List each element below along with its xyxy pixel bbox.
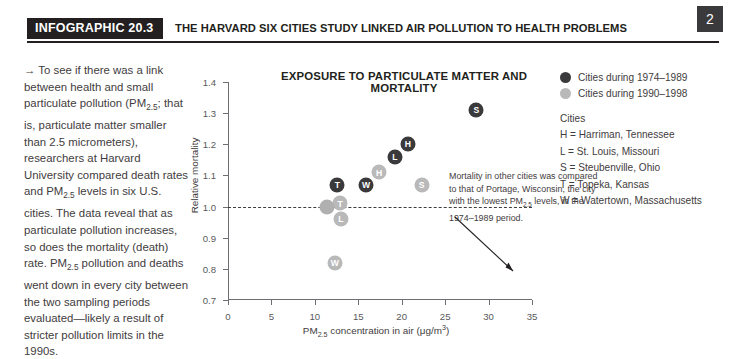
chart-legend: Cities during 1974–1989Cities during 199…: [560, 72, 740, 209]
x-tick-label: 20: [396, 311, 407, 322]
y-tick: 0.9: [223, 238, 228, 239]
y-tick: 0.8: [223, 269, 228, 270]
y-tick-label: 1.1: [203, 170, 216, 181]
legend-swatch-icon: [560, 88, 571, 99]
x-tick: 30: [489, 300, 490, 305]
legend-key-item: S = Steubenville, Ohio: [560, 160, 740, 176]
data-point-marker: T: [333, 196, 348, 211]
data-point-marker: [320, 199, 335, 214]
data-point-marker: W: [359, 177, 374, 192]
infographic-header: INFOGRAPHIC 20.3 THE HARVARD SIX CITIES …: [0, 0, 745, 46]
data-point-marker: S: [414, 177, 429, 192]
y-tick: 1.1: [223, 175, 228, 176]
legend-key-item: H = Harriman, Tennessee: [560, 127, 740, 143]
data-point-marker: H: [372, 165, 387, 180]
x-tick-label: 15: [353, 311, 364, 322]
y-tick-label: 1.0: [203, 201, 216, 212]
y-tick: 1.3: [223, 113, 228, 114]
y-tick-label: 1.2: [203, 139, 216, 150]
y-axis-label: Relative mortality: [189, 138, 200, 214]
x-tick-label: 25: [440, 311, 451, 322]
intro-paragraph: → To see if there was a link between hea…: [24, 62, 190, 359]
x-axis-line: [228, 299, 532, 300]
y-tick-label: 0.7: [203, 295, 216, 306]
x-tick-label: 10: [310, 311, 321, 322]
x-tick-label: 0: [225, 311, 230, 322]
data-point-marker: L: [387, 149, 402, 164]
legend-key-item: T = Topeka, Kansas: [560, 177, 740, 193]
legend-item-label: Cities during 1974–1989: [578, 72, 687, 83]
page-title: THE HARVARD SIX CITIES STUDY LINKED AIR …: [175, 22, 627, 34]
legend-key-title: Cities: [560, 111, 740, 127]
legend-item-label: Cities during 1990–1998: [578, 88, 687, 99]
legend-series-list: Cities during 1974–1989Cities during 199…: [560, 72, 740, 99]
data-point-marker: W: [327, 255, 342, 270]
x-axis-label: PM2.5 concentration in air (μg/m3): [196, 324, 556, 339]
data-point-marker: S: [469, 103, 484, 118]
x-tick: 5: [271, 300, 272, 305]
page-number-badge: 2: [697, 6, 723, 32]
x-tick: 25: [445, 300, 446, 305]
legend-item: Cities during 1974–1989: [560, 72, 740, 83]
y-tick-label: 1.3: [203, 108, 216, 119]
data-point-marker: H: [400, 137, 415, 152]
y-axis-line: [228, 82, 229, 300]
y-tick: 1.4: [223, 82, 228, 83]
legend-key-items: H = Harriman, TennesseeL = St. Louis, Mi…: [560, 127, 740, 209]
data-point-marker: L: [333, 212, 348, 227]
x-tick: 35: [532, 300, 533, 305]
x-tick: 0: [228, 300, 229, 305]
infographic-number-tag: INFOGRAPHIC 20.3: [27, 18, 163, 39]
header-divider: [27, 41, 719, 43]
y-tick-label: 1.4: [203, 77, 216, 88]
x-tick-label: 35: [527, 311, 538, 322]
chart-container: EXPOSURE TO PARTICULATE MATTER AND MORTA…: [196, 62, 556, 347]
legend-key-item: L = St. Louis, Missouri: [560, 144, 740, 160]
intro-body-text: To see if there was a link between healt…: [24, 64, 188, 357]
legend-swatch-icon: [560, 72, 571, 83]
x-tick: 15: [358, 300, 359, 305]
x-tick-label: 30: [483, 311, 494, 322]
x-tick: 10: [315, 300, 316, 305]
arrow-icon: →: [24, 64, 35, 76]
y-tick-label: 0.8: [203, 263, 216, 274]
legend-key-item: W = Watertown, Massachusetts: [560, 193, 740, 209]
y-tick-label: 0.9: [203, 232, 216, 243]
y-tick: 1.2: [223, 144, 228, 145]
x-tick-label: 5: [269, 311, 274, 322]
x-tick: 20: [402, 300, 403, 305]
legend-item: Cities during 1990–1998: [560, 88, 740, 99]
data-point-marker: T: [330, 177, 345, 192]
legend-city-key: Cities H = Harriman, TennesseeL = St. Lo…: [560, 111, 740, 209]
